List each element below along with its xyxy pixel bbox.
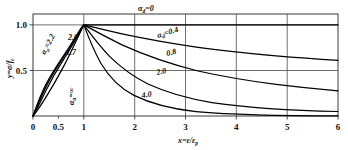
vertical-gridlines [84, 14, 287, 116]
svg-text:αa=2.2: αa=2.2 [39, 33, 58, 57]
x-tick-4: 4 [234, 122, 239, 132]
label-alpha-a-1-7: 1.7 [66, 48, 77, 57]
label-alpha-d-0-8: 0.8 [165, 47, 177, 58]
x-tick-labels: 0 0.5 1 2 3 4 5 6 [31, 122, 341, 132]
svg-text:4.0: 4.0 [140, 90, 152, 101]
x-tick-1: 1 [82, 122, 87, 132]
y-axis-title-main: y=σ/f [5, 59, 14, 79]
x-tick-5: 5 [285, 122, 290, 132]
x-axis-title-sub: p [194, 140, 198, 146]
y-axis-ticks [30, 25, 34, 71]
svg-text:αd=0.4: αd=0.4 [156, 25, 180, 41]
label-alpha-d-0-4: αd=0.4 [156, 25, 180, 41]
label-alpha-a-2-2: αa=2.2 [39, 33, 58, 57]
alpha-val-top: =0 [145, 4, 154, 13]
alpha-a-value-inf: =∞ [67, 87, 76, 98]
svg-text:αd=0: αd=0 [138, 4, 154, 14]
y-axis-title: y=σ/fc [5, 58, 15, 79]
y-tick-1-0: 1.0 [16, 20, 28, 30]
x-tick-3: 3 [183, 122, 188, 132]
label-alpha-a-infinity: αa=∞ [67, 87, 77, 105]
svg-text:x=ε/εp: x=ε/εp [177, 136, 198, 146]
svg-text:2.0: 2.0 [154, 66, 167, 77]
x-axis-title-main: x=ε/ε [177, 136, 196, 145]
label-alpha-d-4-0: 4.0 [140, 90, 152, 101]
x-tick-0: 0 [31, 122, 36, 132]
svg-text:αa=∞: αa=∞ [67, 87, 77, 105]
x-axis-title: x=ε/εp [177, 136, 198, 146]
svg-text:0.8: 0.8 [165, 47, 177, 58]
y-tick-labels: 0.5 1.0 [16, 20, 28, 76]
alpha-d-value-0-4: =0.4 [163, 25, 180, 38]
label-alpha-d-0: αd=0 [138, 4, 154, 14]
y-tick-0-5: 0.5 [16, 66, 28, 76]
alpha-a-value-2-2: =2.2 [42, 33, 57, 50]
svg-text:y=σ/fc: y=σ/fc [5, 58, 15, 79]
label-alpha-d-2-0: 2.0 [154, 66, 167, 77]
chart-svg: 0 0.5 1 2 3 4 5 6 0.5 1.0 x=ε/εp y=σ/fc [0, 0, 348, 150]
curve-alpha-d-2-0 [84, 25, 338, 112]
x-tick-6: 6 [336, 122, 341, 132]
stress-strain-curve-figure: 0 0.5 1 2 3 4 5 6 0.5 1.0 x=ε/εp y=σ/fc [0, 0, 348, 150]
y-axis-title-sub: c [9, 58, 15, 61]
x-tick-2: 2 [132, 122, 137, 132]
x-axis-ticks [33, 116, 338, 120]
curve-alpha-d-0-4 [84, 25, 338, 60]
x-tick-0-5: 0.5 [53, 122, 65, 132]
label-alpha-a-2-0: 2.0 [67, 33, 78, 42]
